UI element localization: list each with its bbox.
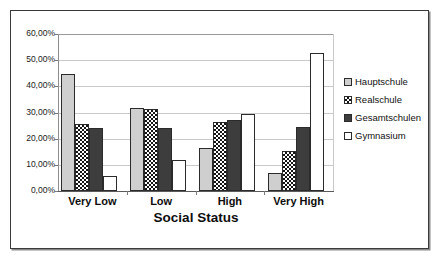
value-axis-tick-label: 60,00%	[11, 29, 55, 38]
bar[interactable]	[241, 114, 255, 191]
category-axis-tick-label: Very Low	[58, 195, 127, 207]
bar-group	[196, 34, 265, 191]
category-axis-tick-mark	[264, 191, 265, 195]
bar[interactable]	[61, 74, 75, 191]
value-axis-tick-label: 50,00%	[11, 55, 55, 64]
bar[interactable]	[296, 127, 310, 191]
legend-swatch-icon	[344, 114, 352, 122]
bar-group	[264, 34, 333, 191]
legend-item-label: Gesamtschulen	[355, 113, 421, 123]
bar[interactable]	[144, 109, 158, 191]
bar[interactable]	[89, 128, 103, 191]
legend-swatch-icon	[344, 96, 352, 104]
value-axis-tick-label: 40,00%	[11, 81, 55, 90]
legend-item-label: Realschule	[355, 95, 402, 105]
legend-item[interactable]: Gesamtschulen	[344, 109, 428, 127]
category-axis-tick-label: Very High	[264, 195, 333, 207]
legend-item-label: Hauptschule	[355, 77, 408, 87]
value-axis-tick-label: 30,00%	[11, 108, 55, 117]
bar[interactable]	[75, 124, 89, 192]
legend-item-label: Gymnasium	[355, 131, 406, 141]
value-axis: 60,00%50,00%40,00%30,00%20,00%10,00%0,00…	[11, 34, 55, 191]
bar[interactable]	[158, 128, 172, 191]
bar[interactable]	[103, 176, 117, 191]
bar[interactable]	[268, 173, 282, 191]
bar[interactable]	[199, 148, 213, 191]
x-axis-title: Social Status	[58, 210, 334, 225]
legend-swatch-icon	[344, 78, 352, 86]
bar[interactable]	[130, 108, 144, 191]
bar-group	[127, 34, 196, 191]
category-axis-tick-mark	[196, 191, 197, 195]
category-axis-tick-label: Low	[127, 195, 196, 207]
bar[interactable]	[282, 151, 296, 191]
legend-item[interactable]: Hauptschule	[344, 73, 428, 91]
chart-container: 60,00%50,00%40,00%30,00%20,00%10,00%0,00…	[10, 10, 429, 249]
bar-group	[58, 34, 127, 191]
plot-area	[58, 34, 333, 191]
bar[interactable]	[213, 122, 227, 191]
category-axis: Very LowLowHighVery High	[58, 195, 334, 211]
value-axis-tick-label: 0,00%	[11, 186, 55, 195]
bar[interactable]	[227, 120, 241, 191]
category-axis-tick-mark	[127, 191, 128, 195]
value-axis-line	[58, 34, 59, 192]
bar[interactable]	[310, 53, 324, 191]
bar[interactable]	[172, 160, 186, 191]
value-axis-tick-label: 10,00%	[11, 160, 55, 169]
legend-swatch-icon	[344, 132, 352, 140]
chart-legend: HauptschuleRealschuleGesamtschulenGymnas…	[344, 73, 428, 145]
legend-item[interactable]: Gymnasium	[344, 127, 428, 145]
plot-right-edge	[333, 34, 334, 192]
category-axis-tick-label: High	[196, 195, 265, 207]
legend-item[interactable]: Realschule	[344, 91, 428, 109]
value-axis-tick-label: 20,00%	[11, 134, 55, 143]
